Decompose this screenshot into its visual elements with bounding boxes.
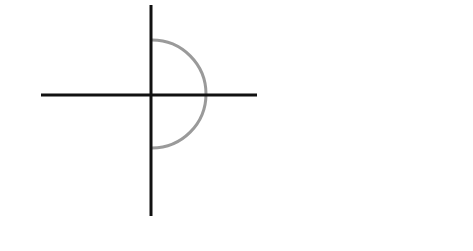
background [0, 0, 473, 251]
diagram-canvas [0, 0, 473, 251]
